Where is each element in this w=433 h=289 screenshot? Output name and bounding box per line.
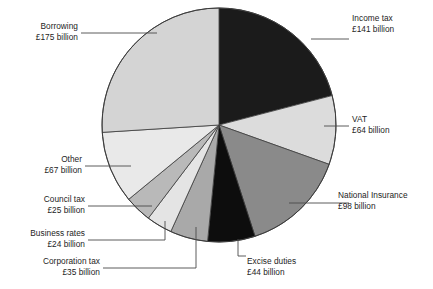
label-vat: VAT £64 billion	[352, 114, 390, 136]
label-income-tax-value: £141 billion	[352, 24, 394, 35]
label-other-value: £67 billion	[44, 165, 82, 176]
label-national-insurance: National Insurance £98 billion	[338, 190, 408, 212]
label-vat-value: £64 billion	[352, 125, 390, 136]
label-business-rates: Business rates £24 billion	[30, 228, 85, 250]
label-income-tax-title: Income tax	[352, 13, 394, 24]
pie-chart-figure: Income tax £141 billionVAT £64 billionNa…	[0, 0, 433, 289]
label-corporation-tax-value: £35 billion	[43, 267, 100, 278]
label-council-tax: Council tax £25 billion	[44, 194, 85, 216]
label-corporation-tax: Corporation tax £35 billion	[43, 256, 100, 278]
label-other: Other £67 billion	[44, 154, 82, 176]
label-borrowing-title: Borrowing	[36, 21, 78, 32]
label-vat-title: VAT	[352, 114, 390, 125]
label-council-tax-value: £25 billion	[44, 205, 85, 216]
label-borrowing: Borrowing £175 billion	[36, 21, 78, 43]
label-corporation-tax-title: Corporation tax	[43, 256, 100, 267]
label-council-tax-title: Council tax	[44, 194, 85, 205]
label-excise-duties-title: Excise duties	[247, 256, 296, 267]
label-excise-duties: Excise duties £44 billion	[247, 256, 296, 278]
label-income-tax: Income tax £141 billion	[352, 13, 394, 35]
label-business-rates-title: Business rates	[30, 228, 85, 239]
label-excise-duties-value: £44 billion	[247, 267, 296, 278]
label-other-title: Other	[44, 154, 82, 165]
leader-line-business-rates	[88, 221, 165, 240]
label-national-insurance-title: National Insurance	[338, 190, 408, 201]
leader-line-excise-duties	[238, 239, 246, 256]
label-national-insurance-value: £98 billion	[338, 201, 408, 212]
label-business-rates-value: £24 billion	[30, 239, 85, 250]
pie-slice-borrowing[interactable]: Borrowing £175 billion	[102, 8, 219, 132]
label-borrowing-value: £175 billion	[36, 32, 78, 43]
pie-slices-group: Income tax £141 billionVAT £64 billionNa…	[102, 8, 336, 242]
